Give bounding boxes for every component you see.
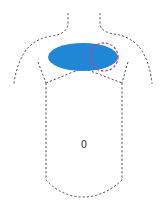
chest-lower-outline (46, 70, 122, 83)
left-armpit-outline (38, 62, 46, 83)
right-armpit-outline (122, 62, 128, 83)
chest-marker-ellipse[interactable] (48, 43, 118, 71)
torso-label: 0 (81, 139, 87, 150)
body-diagram: 0 (0, 0, 166, 205)
